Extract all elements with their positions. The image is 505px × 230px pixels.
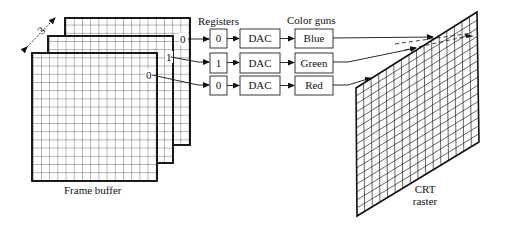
crt-label-line2: raster (413, 195, 438, 207)
dac-label: DAC (248, 57, 271, 69)
plane-bit-front: 0 (146, 69, 152, 81)
gun-label: Red (305, 79, 323, 91)
plane-bit-back: 0 (180, 33, 186, 45)
color-guns-header: Color guns (287, 14, 336, 26)
register-value: 1 (216, 57, 222, 69)
frame-buffer-diagram: 3 0 1 0 Frame buffer Registers Color gun… (0, 0, 505, 230)
crt-label-line1: CRT (415, 183, 436, 195)
plane-bit-middle: 1 (166, 51, 172, 63)
dac-label: DAC (248, 79, 271, 91)
channel-red: 0 DAC Red (210, 76, 371, 95)
gun-label: Green (301, 57, 328, 69)
depth-label: 3 (35, 24, 48, 37)
dac-label: DAC (248, 32, 271, 44)
register-value: 0 (216, 32, 222, 44)
gun-label: Blue (304, 32, 325, 44)
frame-buffer-label: Frame buffer (64, 184, 122, 196)
registers-header: Registers (198, 15, 239, 27)
register-value: 0 (216, 79, 222, 91)
channel-blue: 0 DAC Blue (210, 29, 433, 48)
frame-buffer-plane-front (32, 53, 157, 181)
